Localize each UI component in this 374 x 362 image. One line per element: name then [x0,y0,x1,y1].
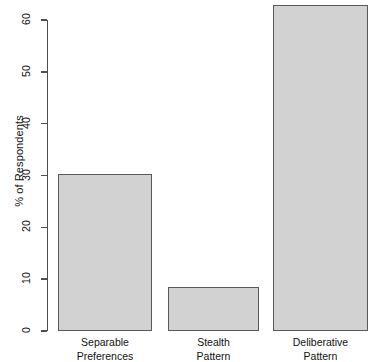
x-axis-label-3: DeliberativePattern [255,336,374,362]
y-axis-tick [41,175,47,176]
y-axis-tick-label: 60 [20,7,32,31]
y-axis-tick [41,330,47,331]
bar-chart: 0102030405060 % of Respondents Separable… [0,0,374,362]
y-axis-tick [41,123,47,124]
y-axis-title: % of Respondents [13,101,25,221]
y-axis-tick [41,19,47,20]
y-axis-tick-label: 50 [20,59,32,83]
bar-2 [168,287,259,331]
y-axis-tick-label: 10 [20,266,32,290]
y-axis-tick-label: 0 [20,318,32,342]
bar-3 [273,5,368,331]
bar-1 [58,174,152,331]
y-axis-tick [41,278,47,279]
y-axis-tick [41,227,47,228]
y-axis-tick [41,71,47,72]
x-axis-label-line: Pattern [255,350,374,362]
x-axis-label-line: Deliberative [255,336,374,350]
y-axis-line [47,20,48,331]
